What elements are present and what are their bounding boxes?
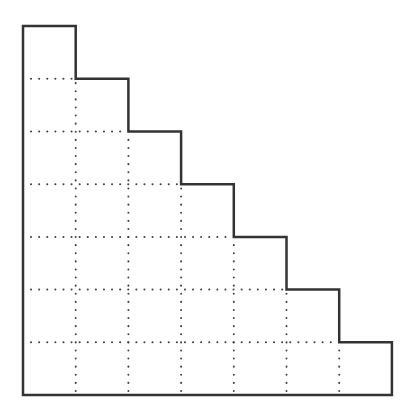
dotted-grid-lines xyxy=(31,79,339,391)
staircase-outline xyxy=(23,26,392,395)
staircase-diagram xyxy=(0,0,410,416)
